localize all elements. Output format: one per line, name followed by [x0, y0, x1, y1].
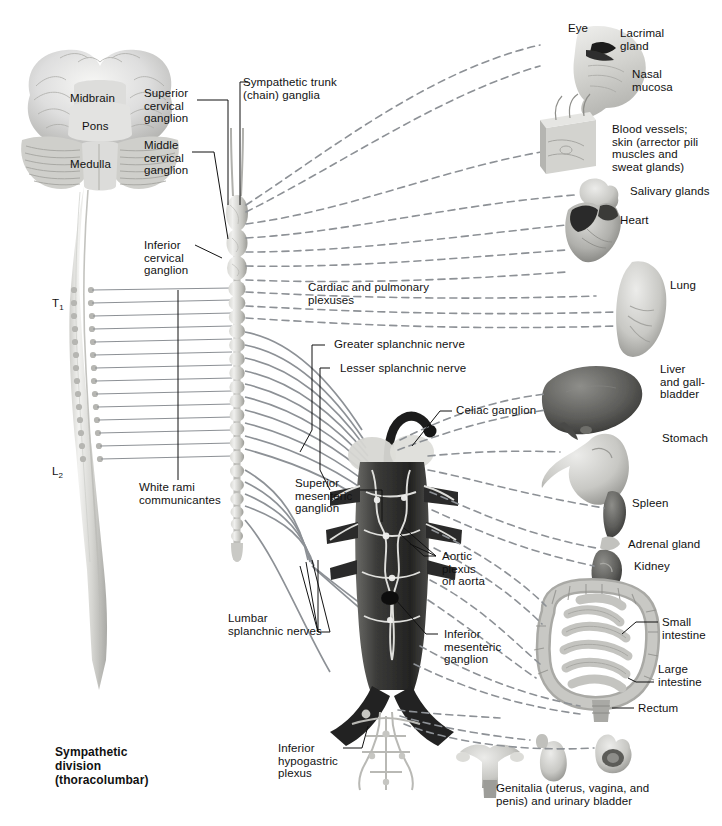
label-sympathetic-trunk: Sympathetic trunk (chain) ganglia [243, 76, 337, 101]
label-inferior-cervical-ganglion: Inferior cervical ganglion [144, 239, 188, 277]
label-rectum: Rectum [638, 702, 678, 715]
label-midbrain: Midbrain [70, 92, 115, 105]
leader-lines [178, 82, 658, 748]
white-rami-communicantes [92, 288, 232, 459]
label-superior-mesenteric-ganglion: Superior mesenteric ganglion [295, 477, 352, 515]
label-greater-splanchnic-nerve: Greater splanchnic nerve [334, 338, 465, 351]
label-celiac-ganglion: Celiac ganglion [456, 404, 536, 417]
label-white-rami-communicantes: White rami communicantes [139, 481, 221, 506]
label-small-intestine: Small intestine [662, 616, 706, 641]
label-inferior-hypogastric-plexus: Inferior hypogastric plexus [278, 742, 338, 780]
organ-salivary-glands [580, 179, 619, 212]
label-l2: L2 [52, 452, 63, 482]
organ-stomach [542, 434, 629, 505]
label-salivary-glands: Salivary glands [630, 185, 709, 198]
label-t1-sub: 1 [59, 303, 64, 312]
organ-liver-gallbladder [542, 366, 642, 440]
label-superior-cervical-ganglion: Superior cervical ganglion [144, 87, 188, 125]
label-adrenal-gland: Adrenal gland [628, 538, 700, 551]
label-lung: Lung [670, 279, 696, 292]
label-liver-gallbladder: Liver and gall- bladder [660, 363, 705, 401]
label-heart: Heart [620, 214, 649, 227]
figure-title: Sympathetic division (thoracolumbar) [55, 745, 149, 787]
label-kidney: Kidney [634, 560, 670, 573]
label-nasal-mucosa: Nasal mucosa [632, 68, 673, 93]
label-spleen: Spleen [632, 497, 668, 510]
sympathetic-division-diagram: Midbrain Pons Medulla T1 L2 Superior cer… [0, 0, 722, 826]
label-lacrimal-gland: Lacrimal gland [620, 27, 664, 52]
label-stomach: Stomach [662, 432, 708, 445]
label-lumbar-splanchnic-nerves: Lumbar splanchnic nerves [228, 612, 322, 637]
organ-lung [616, 261, 666, 357]
sympathetic-trunk-chain [226, 128, 248, 562]
organ-spleen [603, 491, 626, 538]
label-medulla: Medulla [70, 158, 111, 171]
organ-penis [536, 734, 567, 781]
label-eye: Eye [568, 22, 588, 35]
label-middle-cervical-ganglion: Middle cervical ganglion [144, 139, 188, 177]
label-blood-vessels-skin: Blood vessels; skin (arrector pili muscl… [612, 123, 698, 173]
organ-urinary-bladder [595, 735, 631, 774]
organ-skin-block [540, 94, 596, 174]
spinal-nerve-roots [71, 287, 103, 462]
label-pons: Pons [82, 120, 109, 133]
organ-heart [565, 203, 621, 263]
label-lesser-splanchnic-nerve: Lesser splanchnic nerve [340, 362, 466, 375]
label-l2-sub: 2 [59, 471, 64, 480]
label-cardiac-pulmonary-plexuses: Cardiac and pulmonary plexuses [308, 281, 429, 306]
label-inferior-mesenteric-ganglion: Inferior mesenteric ganglion [444, 628, 501, 666]
inferior-hypogastric-plexus [352, 712, 420, 790]
label-aortic-plexus: Aortic plexus on aorta [442, 550, 485, 588]
label-genitalia-bladder: Genitalia (uterus, vagina, and penis) an… [496, 782, 649, 807]
hypogastric-ganglia [362, 710, 406, 786]
label-large-intestine: Large intestine [658, 663, 702, 688]
organ-adrenal-kidney [591, 536, 622, 592]
spinal-cord [69, 186, 107, 690]
abdominal-postganglionic-fibers [398, 394, 604, 749]
label-t1: T1 [52, 284, 64, 314]
